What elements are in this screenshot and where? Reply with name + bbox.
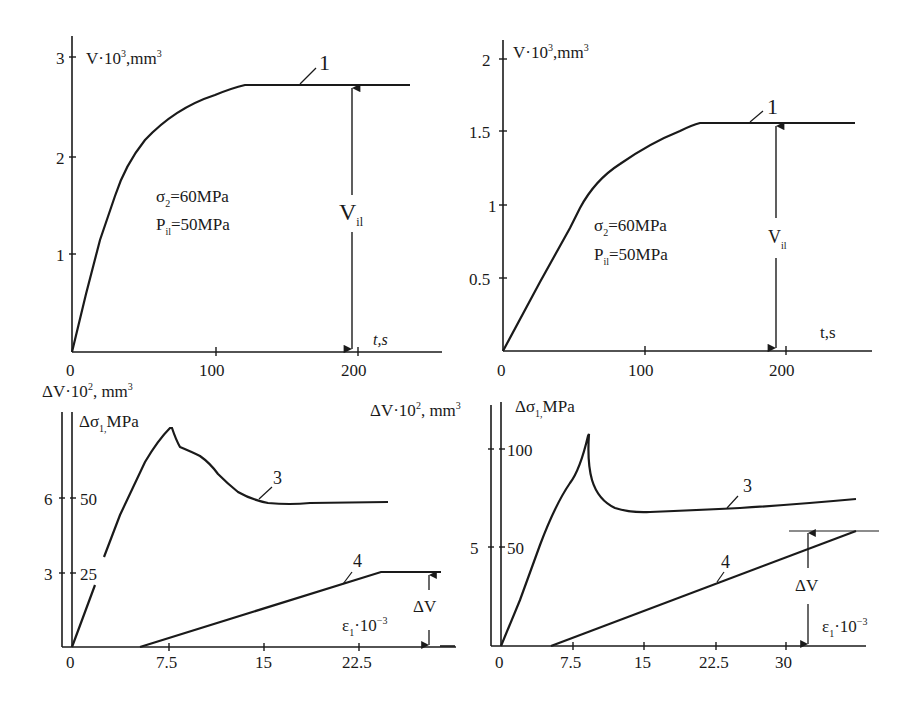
x-tick-label: 7.5: [156, 653, 177, 672]
x-axis-label: t,s: [373, 331, 388, 348]
x-tick-label: 200: [769, 361, 795, 380]
x-tick-label: 22.5: [699, 653, 729, 672]
y-tick-label-dv: 6: [44, 490, 53, 509]
curve-label-1: 1: [767, 94, 778, 119]
annotation-pressure: Pil=50MPa: [156, 215, 230, 237]
curve-1: [503, 123, 855, 351]
x-tick-label: 0: [66, 653, 75, 672]
x-tick-label: 15: [255, 653, 272, 672]
x-tick-label: 0: [495, 653, 504, 672]
x-tick-label: 0: [497, 361, 506, 380]
curve-4: [140, 572, 441, 647]
vil-label: Vil: [768, 227, 787, 251]
y-tick-label: 1: [56, 246, 65, 265]
curve-3: [72, 428, 388, 647]
y-axis-label: V·103,mm3: [513, 42, 589, 62]
y-axis-label-dv: ΔV·102, mm3: [42, 381, 133, 401]
curve-label-leader: [727, 496, 738, 508]
y-tick-label: 2: [56, 149, 65, 168]
y-tick-label-dsigma: 25: [80, 565, 97, 584]
delta-v-label: ΔV: [413, 597, 437, 616]
x-tick-label: 0: [66, 361, 75, 380]
x-tick-label: 15: [634, 653, 651, 672]
y-tick-label-dsigma: 50: [80, 490, 97, 509]
figure: 3 2 1 0 100 200 V·103,mm3 1 Vil σ2=60MPa…: [0, 0, 912, 711]
x-tick-label: 100: [199, 361, 225, 380]
x-tick-label: 30: [775, 653, 792, 672]
y-tick-label: 3: [56, 49, 65, 68]
vil-label: Vil: [339, 199, 364, 229]
y-axis-label-dsigma: Δσ1,MPa: [79, 412, 139, 434]
curve-label-leader: [259, 487, 272, 499]
chart-top-right: 2 1.5 1 0.5 0 100 200 V·103,mm3 1 Vil σ2…: [469, 40, 872, 380]
y-tick-label-dsigma: 50: [507, 539, 524, 558]
curve-3: [501, 434, 856, 646]
x-axis-label: ε1·10−3: [342, 615, 387, 638]
chart-bottom-left: 6 3 50 25 0 7.5 15 22.5 ΔV·102, mm3 Δσ1,…: [42, 381, 456, 672]
y-axis-label-dsigma: Δσ1,MPa: [515, 397, 575, 419]
y-axis-label: V·103,mm3: [86, 48, 162, 68]
curve-label-leader: [750, 111, 763, 122]
chart-bottom-right: 5 100 50 0 7.5 15 22.5 30 ΔV·102, mm3 Δσ…: [370, 397, 879, 672]
x-tick-label: 7.5: [560, 653, 581, 672]
x-tick-label: 100: [628, 361, 654, 380]
curve-label-4: 4: [353, 551, 362, 571]
curve-label-1: 1: [319, 50, 330, 75]
annotation-sigma: σ2=60MPa: [594, 216, 667, 238]
y-tick-label: 1: [488, 197, 497, 216]
x-axis-label: ε1·10−3: [822, 616, 867, 639]
y-tick-label: 0.5: [469, 270, 490, 289]
annotation-pressure: Pil=50MPa: [594, 245, 668, 267]
x-tick-label: 22.5: [342, 653, 372, 672]
annotation-sigma: σ2=60MPa: [156, 187, 229, 209]
curve-label-4: 4: [721, 552, 730, 572]
y-tick-label: 2: [482, 51, 491, 70]
x-axis-label: t,s: [820, 323, 836, 342]
y-tick-label-dv: 5: [470, 539, 479, 558]
y-tick-label-dsigma: 100: [507, 441, 533, 460]
curve-label-3: 3: [743, 476, 752, 496]
curve-label-leader: [300, 68, 316, 84]
chart-top-left: 3 2 1 0 100 200 V·103,mm3 1 Vil σ2=60MPa…: [56, 36, 442, 380]
delta-v-label: ΔV: [795, 576, 819, 595]
y-axis-label-dv: ΔV·102, mm3: [370, 400, 461, 420]
y-tick-label-dv: 3: [44, 565, 53, 584]
x-tick-label: 200: [341, 361, 367, 380]
curve-label-3: 3: [273, 468, 282, 488]
y-tick-label: 1.5: [469, 123, 490, 142]
